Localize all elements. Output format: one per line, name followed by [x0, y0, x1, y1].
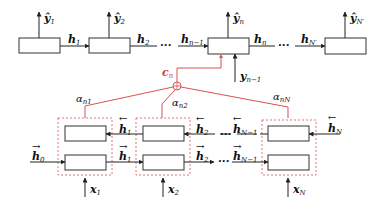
label-context-cn: cn [162, 66, 174, 80]
label-y-prev: yn−1 [239, 70, 261, 84]
backward-cell-2 [143, 126, 184, 141]
decoder-cell-1 [19, 38, 60, 53]
label-xN: xN [292, 183, 307, 197]
label-hbN: hN [328, 122, 343, 136]
ellipsis-forward: ··· [218, 155, 230, 168]
label-hprime-n: hn [254, 33, 267, 47]
forward-cell-2 [143, 155, 184, 170]
label-x1: x1 [89, 183, 101, 197]
label-hfN1: hN−1 [233, 150, 257, 164]
backward-cell-1 [65, 126, 106, 141]
label-hf0: h0 [32, 150, 45, 164]
backward-cell-N [268, 126, 309, 141]
label-alpha-n2: αn2 [172, 97, 188, 110]
label-y1: ŷ1 [43, 12, 55, 26]
label-y2: ŷ2 [113, 12, 125, 26]
forward-cell-1 [65, 155, 106, 170]
decoder-cell-2 [89, 38, 130, 53]
label-alpha-n1: αn1 [76, 93, 92, 106]
label-hprime-n-1: hn−1 [181, 33, 204, 47]
decoder-row [19, 12, 366, 82]
label-hf2: h2 [196, 150, 209, 164]
label-yn: ŷn [232, 12, 244, 26]
label-hprime-N: hN′ [301, 33, 317, 47]
label-hb1: h1 [119, 123, 131, 137]
label-hb2: h2 [196, 123, 209, 137]
encoder-group-1 [58, 118, 112, 175]
decoder-cell-N [325, 38, 366, 54]
attention-diagram: ŷ1 ŷ2 ŷn ŷN′ h1 h2 ··· hn−1 hn ··· hN′ y… [0, 0, 384, 210]
label-yN: ŷN′ [349, 12, 365, 26]
label-x2: x2 [167, 183, 180, 197]
encoder-group-N [262, 120, 316, 175]
ellipsis-decoder-1: ··· [160, 39, 172, 52]
decoder-cell-n [208, 38, 249, 54]
encoder-group-2 [136, 118, 190, 175]
label-hprime-2: h2 [137, 33, 150, 47]
ellipsis-decoder-2: ··· [278, 39, 290, 52]
label-hbN1: hN−1 [233, 123, 257, 137]
label-hprime-1: h1 [68, 33, 80, 47]
ellipsis-backward: ··· [220, 128, 232, 141]
label-hf1: h1 [119, 150, 131, 164]
label-alpha-nN: αnN [273, 91, 291, 104]
forward-cell-N [268, 155, 309, 170]
